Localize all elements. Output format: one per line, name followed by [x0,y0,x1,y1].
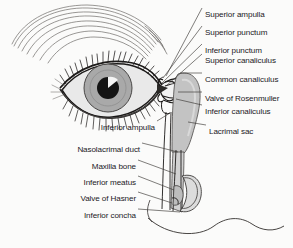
label-inferior-meatus: Inferior meatus [84,178,136,187]
leader-superior-punctum [163,26,202,78]
leader-inferior-concha [138,209,180,212]
leader-inferior-meatus [138,176,174,190]
label-inferior-concha: Inferior concha [84,211,136,220]
label-valve-of-rosenmuller: Valve of Rosenmuller [205,94,279,103]
label-common-canaliculus: Common canaliculus [205,75,278,84]
inferior-ampulla-hook [161,101,170,114]
label-valve-of-hasner: Valve of Hasner [81,194,136,203]
label-superior-ampulla: Superior ampulla [205,10,265,19]
leader-inferior-ampulla [157,113,170,121]
anatomy-figure: Superior ampullaSuperior punctumInferior… [0,0,293,248]
label-inferior-ampulla: Inferior ampulla [101,123,155,132]
label-superior-punctum: Superior punctum [205,28,267,37]
nasal-floor-contour [148,218,284,234]
eyebrow-icon [12,5,167,63]
label-lacrimal-sac: Lacrimal sac [209,127,253,136]
label-nasolacrimal-duct: Nasolacrimal duct [77,145,140,154]
leader-valve-hasner [138,192,172,203]
label-inferior-punctum: Inferior punctum [205,46,262,55]
label-superior-canaliculus: Superior canaliculus [205,56,276,65]
lacrimal-sac-shape [172,73,200,154]
label-inferior-canaliculus: Inferior canaliculus [205,107,270,116]
leader-superior-ampulla [166,8,202,76]
label-maxilla-bone: Maxilla bone [92,162,136,171]
